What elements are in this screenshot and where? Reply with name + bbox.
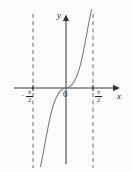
fraction-denominator: 2 [96, 97, 101, 103]
fraction-numerator: π [96, 89, 101, 95]
y-axis-arrow [63, 15, 69, 22]
minus-sign: − [21, 92, 24, 98]
y-axis-label: y [57, 11, 61, 20]
fraction-numerator: π [27, 89, 32, 95]
fraction-denominator: 2 [27, 97, 32, 103]
tick-label-positive-half-pi: π 2 [95, 89, 102, 104]
origin-label: 0 [63, 90, 68, 99]
tangent-function-figure: y x 0 − π 2 π 2 [0, 0, 132, 172]
tick-label-negative-half-pi: − π 2 [26, 89, 33, 104]
plot-canvas [0, 0, 132, 172]
x-axis-label: x [117, 92, 121, 101]
